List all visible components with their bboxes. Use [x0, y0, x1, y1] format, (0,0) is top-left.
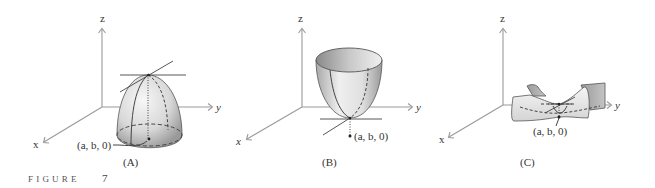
panel-a: z y x (a, b, 0) (A) [33, 12, 221, 169]
panel-label-c: (C) [520, 156, 535, 169]
y-label-b: y [415, 101, 421, 113]
x-label: x [235, 135, 241, 147]
critical-point-dot [349, 135, 352, 138]
z-label: z [100, 12, 105, 24]
critical-point-dot [148, 138, 151, 141]
tangent-line-diagonal [323, 118, 350, 135]
axes-c: z y x [439, 12, 620, 145]
point-label-b: (a, b, 0) [354, 130, 389, 143]
panel-label-b: (B) [322, 156, 337, 169]
saddle-surface [512, 83, 605, 126]
x-label: x [439, 133, 445, 145]
x-axis [247, 107, 302, 139]
x-axis [44, 107, 102, 142]
point-label-a: (a, b, 0) [77, 139, 112, 152]
bowl-surface [316, 48, 382, 138]
panel-b: z y x (a, b, 0) (B) [235, 12, 421, 169]
caption-number: 7 [102, 172, 108, 184]
dome-surface [113, 61, 186, 148]
z-label: z [500, 12, 505, 24]
y-label: y [215, 101, 221, 113]
point-label-c: (a, b, 0) [533, 125, 568, 138]
panel-c: z y x (a, b, 0) (C) [439, 12, 620, 169]
figure-caption: FIGURE 7 [28, 172, 108, 184]
x-label: x [33, 138, 39, 150]
panel-label-a: (A) [123, 156, 139, 169]
y-label: y [614, 99, 620, 111]
z-label: z [298, 12, 303, 24]
rim-ellipse [316, 48, 382, 72]
figure-7: z y x (a, b, 0) (A) z [0, 0, 655, 188]
x-axis [449, 105, 503, 137]
caption-word: FIGURE [28, 174, 80, 184]
